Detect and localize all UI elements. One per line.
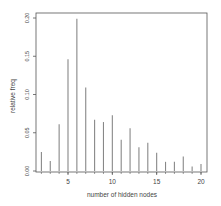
y-tick-label: 0.20 — [24, 13, 30, 24]
x-axis-label: number of hidden nodes — [87, 191, 158, 198]
x-tick-label: 20 — [197, 178, 205, 185]
y-axis: 0.000.050.100.150.20 — [24, 13, 36, 177]
x-tick-label: 5 — [66, 178, 70, 185]
x-axis: 5101520 — [41, 172, 205, 185]
y-tick-label: 0.00 — [24, 166, 30, 177]
y-axis-label: relative freq — [9, 79, 17, 113]
bar-series — [41, 19, 201, 171]
y-tick-label: 0.10 — [24, 89, 30, 100]
histogram-chart: 5101520 0.000.050.100.150.20 number of h… — [0, 0, 221, 206]
y-tick-label: 0.05 — [24, 127, 30, 138]
x-tick-label: 10 — [109, 178, 117, 185]
y-tick-label: 0.15 — [24, 51, 30, 62]
x-tick-label: 15 — [153, 178, 161, 185]
